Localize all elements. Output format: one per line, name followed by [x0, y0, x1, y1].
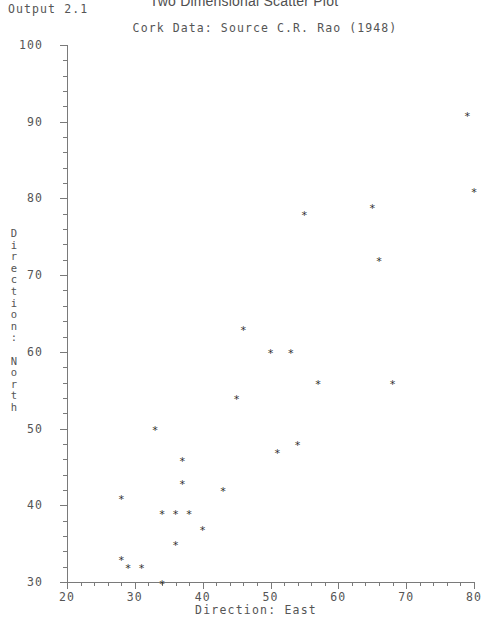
- data-point: [300, 209, 309, 218]
- x-tick-label: 50: [262, 590, 278, 604]
- y-tick-minor: [63, 229, 67, 230]
- y-tick-minor: [63, 290, 67, 291]
- data-point: [171, 539, 180, 548]
- y-tick-minor: [63, 444, 67, 445]
- y-tick-minor: [63, 490, 67, 491]
- y-tick-minor: [63, 367, 67, 368]
- data-point: [388, 378, 397, 387]
- x-tick-label: 80: [466, 590, 482, 604]
- data-point: [151, 424, 160, 433]
- y-tick-label: 70: [27, 268, 43, 282]
- y-tick-major: [60, 582, 67, 583]
- x-tick-minor: [257, 582, 258, 586]
- y-tick-minor: [63, 306, 67, 307]
- y-tick-minor: [63, 398, 67, 399]
- x-tick-minor: [94, 582, 95, 586]
- x-tick-major: [135, 582, 136, 589]
- data-point: [239, 324, 248, 333]
- y-tick-minor: [63, 413, 67, 414]
- y-tick-major: [60, 275, 67, 276]
- data-point: [463, 110, 472, 119]
- y-tick-label: 90: [27, 115, 43, 129]
- y-axis-title-char: h: [6, 402, 22, 414]
- x-tick-minor: [284, 582, 285, 586]
- x-tick-major: [67, 582, 68, 589]
- x-tick-minor: [216, 582, 217, 586]
- data-point: [219, 485, 228, 494]
- data-point: [157, 578, 166, 587]
- data-point: [232, 393, 241, 402]
- y-tick-minor: [63, 536, 67, 537]
- y-tick-minor: [63, 76, 67, 77]
- y-tick-minor: [63, 521, 67, 522]
- y-tick-label: 100: [19, 38, 43, 52]
- x-tick-major: [271, 582, 272, 589]
- y-tick-minor: [63, 60, 67, 61]
- x-tick-minor: [243, 582, 244, 586]
- x-tick-minor: [460, 582, 461, 586]
- y-tick-minor: [63, 244, 67, 245]
- y-tick-label: 80: [27, 191, 43, 205]
- data-point: [171, 508, 180, 517]
- data-point: [266, 347, 275, 356]
- x-tick-minor: [352, 582, 353, 586]
- y-tick-label: 40: [27, 498, 43, 512]
- data-point: [185, 508, 194, 517]
- y-tick-major: [60, 352, 67, 353]
- y-axis-title-char: [6, 344, 22, 356]
- x-tick-minor: [148, 582, 149, 586]
- y-axis-title-char: t: [6, 286, 22, 298]
- x-axis-title: Direction: East: [0, 603, 488, 617]
- x-tick-major: [474, 582, 475, 589]
- x-tick-minor: [176, 582, 177, 586]
- y-tick-label: 60: [27, 345, 43, 359]
- y-tick-label: 30: [27, 575, 43, 589]
- x-tick-minor: [189, 582, 190, 586]
- y-tick-minor: [63, 475, 67, 476]
- y-tick-major: [60, 198, 67, 199]
- y-tick-minor: [63, 183, 67, 184]
- data-point: [293, 439, 302, 448]
- y-tick-minor: [63, 168, 67, 169]
- data-point: [273, 447, 282, 456]
- y-axis-line: [67, 45, 68, 583]
- y-axis-title-char: o: [6, 367, 22, 379]
- y-tick-minor: [63, 383, 67, 384]
- scatter-plot: 3040506070809010020304050607080: [0, 0, 488, 630]
- x-tick-minor: [365, 582, 366, 586]
- y-tick-minor: [63, 567, 67, 568]
- y-tick-minor: [63, 137, 67, 138]
- x-tick-minor: [433, 582, 434, 586]
- x-tick-label: 60: [330, 590, 346, 604]
- data-point: [178, 478, 187, 487]
- x-tick-minor: [81, 582, 82, 586]
- y-tick-label: 50: [27, 422, 43, 436]
- x-tick-minor: [311, 582, 312, 586]
- x-tick-minor: [379, 582, 380, 586]
- y-axis-title-char: D: [6, 228, 22, 240]
- y-axis-title-char: o: [6, 309, 22, 321]
- x-tick-minor: [325, 582, 326, 586]
- x-tick-minor: [121, 582, 122, 586]
- data-point: [117, 493, 126, 502]
- x-tick-major: [338, 582, 339, 589]
- y-tick-minor: [63, 260, 67, 261]
- x-tick-label: 30: [127, 590, 143, 604]
- x-tick-label: 40: [195, 590, 211, 604]
- data-point: [375, 255, 384, 264]
- x-tick-minor: [230, 582, 231, 586]
- data-point: [124, 562, 133, 571]
- x-tick-major: [203, 582, 204, 589]
- data-point: [178, 455, 187, 464]
- data-point: [470, 186, 479, 195]
- y-tick-major: [60, 122, 67, 123]
- data-point: [157, 508, 166, 517]
- data-point: [313, 378, 322, 387]
- x-tick-label: 70: [398, 590, 414, 604]
- y-tick-minor: [63, 91, 67, 92]
- data-point: [137, 562, 146, 571]
- data-point: [286, 347, 295, 356]
- x-tick-minor: [108, 582, 109, 586]
- y-tick-minor: [63, 214, 67, 215]
- y-tick-major: [60, 505, 67, 506]
